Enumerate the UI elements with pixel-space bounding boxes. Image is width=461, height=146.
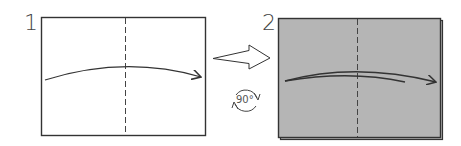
- origami-diagram: [0, 0, 461, 146]
- step-1-paper: [42, 18, 206, 136]
- rotation-label: 90°: [236, 94, 254, 105]
- hollow-arrow-icon: [213, 45, 270, 69]
- step-2-paper: [279, 19, 443, 140]
